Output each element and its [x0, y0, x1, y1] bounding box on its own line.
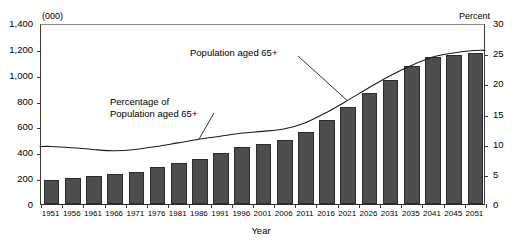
bar-2035: [404, 66, 420, 204]
x-tick-label-2021: 2021: [338, 209, 356, 218]
x-tick-label-1986: 1986: [190, 209, 208, 218]
bar-2051: [468, 53, 484, 204]
x-tick-label-1971: 1971: [126, 209, 144, 218]
bar-1951: [44, 180, 60, 204]
right-tick-label-30: 30: [493, 19, 504, 29]
bottom-tick-13: [316, 204, 317, 208]
bottom-tick-19: [444, 204, 445, 208]
bar-2006: [277, 140, 293, 204]
x-tick-label-1966: 1966: [105, 209, 123, 218]
x-tick-label-1981: 1981: [169, 209, 187, 218]
bar-2011: [298, 132, 314, 204]
bottom-tick-10: [253, 204, 254, 208]
right-tick-label-10: 10: [493, 140, 504, 150]
bar-2026: [362, 93, 378, 204]
bottom-tick-5: [147, 204, 148, 208]
bottom-tick-17: [401, 204, 402, 208]
x-tick-label-1961: 1961: [84, 209, 102, 218]
bottom-tick-9: [232, 204, 233, 208]
right-tick-5: [484, 176, 488, 177]
chart-figure: (000) Percent 02004006008001,0001,2001,4…: [0, 0, 522, 244]
bar-1961: [86, 176, 102, 204]
right-tick-label-0: 0: [493, 200, 498, 210]
bar-1981: [171, 163, 187, 204]
right-tick-10: [484, 146, 488, 147]
x-tick-label-1991: 1991: [211, 209, 229, 218]
bottom-tick-16: [380, 204, 381, 208]
bottom-tick-6: [168, 204, 169, 208]
x-tick-label-2041: 2041: [423, 209, 441, 218]
bar-1996: [234, 147, 250, 204]
bar-2031: [383, 80, 399, 204]
x-tick-label-2016: 2016: [317, 209, 335, 218]
x-tick-label-2051: 2051: [465, 209, 483, 218]
bottom-tick-18: [422, 204, 423, 208]
bottom-tick-8: [211, 204, 212, 208]
left-tick-800: [37, 103, 41, 104]
x-tick-label-2011: 2011: [296, 209, 313, 218]
x-tick-label-2035: 2035: [402, 209, 420, 218]
bar-1976: [150, 167, 166, 204]
left-tick-400: [37, 154, 41, 155]
bottom-tick-21: [486, 204, 487, 208]
right-tick-label-5: 5: [493, 170, 498, 180]
left-tick-1200: [37, 51, 41, 52]
left-tick-label-200: 200: [0, 174, 33, 184]
left-tick-200: [37, 180, 41, 181]
right-tick-label-15: 15: [493, 110, 504, 120]
left-tick-label-1000: 1,000: [0, 71, 33, 81]
bottom-tick-15: [359, 204, 360, 208]
bar-2021: [340, 107, 356, 204]
x-tick-label-2006: 2006: [275, 209, 293, 218]
x-tick-label-1956: 1956: [63, 209, 81, 218]
bottom-tick-4: [126, 204, 127, 208]
x-tick-label-1951: 1951: [42, 209, 60, 218]
x-tick-label-2045: 2045: [444, 209, 462, 218]
bottom-tick-3: [105, 204, 106, 208]
bar-1986: [192, 159, 208, 204]
right-tick-label-25: 25: [493, 49, 504, 59]
bottom-tick-1: [62, 204, 63, 208]
bar-1956: [65, 178, 81, 204]
bottom-tick-11: [274, 204, 275, 208]
right-tick-15: [484, 116, 488, 117]
right-tick-label-20: 20: [493, 80, 504, 90]
right-tick-20: [484, 85, 488, 86]
bar-2041: [425, 57, 441, 204]
right-tick-25: [484, 55, 488, 56]
x-axis-title: Year: [0, 226, 522, 236]
annotation-percentage-line2: Population aged 65+: [110, 108, 197, 120]
right-axis-unit-label: Percent: [459, 11, 490, 21]
bar-2045: [446, 55, 462, 204]
left-tick-1000: [37, 77, 41, 78]
bar-1991: [213, 153, 229, 204]
annotation-percentage-line1: Percentage of: [110, 96, 197, 108]
left-tick-label-1200: 1,200: [0, 45, 33, 55]
bottom-tick-12: [295, 204, 296, 208]
bottom-tick-20: [465, 204, 466, 208]
left-tick-label-400: 400: [0, 149, 33, 159]
bottom-tick-0: [41, 204, 42, 208]
left-tick-label-800: 800: [0, 97, 33, 107]
left-axis-unit-label: (000): [42, 11, 63, 21]
bar-1971: [129, 172, 145, 204]
bottom-tick-14: [338, 204, 339, 208]
bar-1966: [107, 174, 123, 204]
x-tick-label-2031: 2031: [381, 209, 399, 218]
left-tick-label-0: 0: [0, 200, 33, 210]
annotation-percentage-population-65plus: Percentage of Population aged 65+: [110, 96, 197, 119]
x-tick-label-2001: 2001: [254, 209, 272, 218]
x-tick-label-1976: 1976: [148, 209, 166, 218]
left-tick-600: [37, 128, 41, 129]
bottom-tick-2: [83, 204, 84, 208]
bar-2016: [319, 120, 335, 204]
annotation-population-aged-65plus: Population aged 65+: [190, 47, 277, 59]
left-tick-label-1400: 1,400: [0, 19, 33, 29]
x-tick-label-1996: 1996: [232, 209, 250, 218]
bar-2001: [256, 144, 272, 204]
bottom-tick-7: [189, 204, 190, 208]
left-tick-label-600: 600: [0, 123, 33, 133]
x-tick-label-2026: 2026: [360, 209, 378, 218]
